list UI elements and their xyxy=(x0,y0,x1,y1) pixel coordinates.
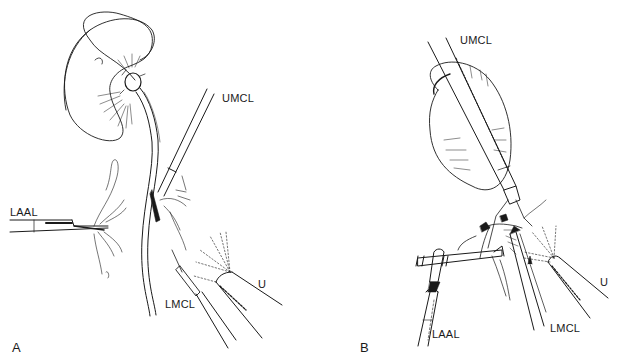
kidney-drawing xyxy=(64,2,154,141)
panel-a-illustration xyxy=(0,0,310,362)
kidney-drawing xyxy=(429,62,511,190)
tissue-laal xyxy=(94,160,126,278)
lmcl-instrument xyxy=(510,226,546,330)
panel-b: UMCL LAAL LMCL U B xyxy=(310,0,618,362)
panel-a: UMCL LAAL LMCL U A xyxy=(0,0,310,362)
lmcl-label: LMCL xyxy=(550,322,580,334)
umcl-label: UMCL xyxy=(460,34,492,46)
tissue-a xyxy=(160,176,190,250)
laal-label: LAAL xyxy=(432,328,460,340)
u-label: U xyxy=(258,278,266,290)
u-label: U xyxy=(600,276,608,288)
lmcl-label: LMCL xyxy=(165,298,195,310)
laal-instrument xyxy=(416,246,504,346)
panel-b-label: B xyxy=(360,340,369,355)
umcl-instrument xyxy=(150,89,214,222)
ureter-drawing xyxy=(136,88,160,316)
u-instrument xyxy=(194,232,282,338)
laal-label: LAAL xyxy=(10,206,38,218)
u-instrument xyxy=(524,226,608,318)
laal-instrument xyxy=(10,220,108,232)
panel-b-illustration xyxy=(310,0,618,362)
umcl-label: UMCL xyxy=(222,92,254,104)
umcl-instrument xyxy=(428,38,520,204)
panel-a-label: A xyxy=(12,340,21,355)
